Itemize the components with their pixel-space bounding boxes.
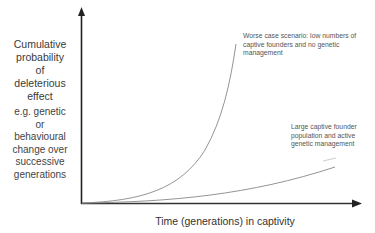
x-axis-label: Time (generations) in captivity [80, 215, 370, 227]
x-axis-arrow-icon [352, 200, 362, 208]
large-founder-annotation: Large captive founder population and act… [291, 123, 375, 149]
annotation-leader-line [323, 158, 336, 161]
worst-case-annotation: Worse case scenario: low numbers of capt… [243, 32, 363, 58]
large-founder-curve [82, 167, 335, 203]
y-axis-arrow-icon [78, 7, 85, 16]
worst-case-curve [82, 44, 236, 203]
